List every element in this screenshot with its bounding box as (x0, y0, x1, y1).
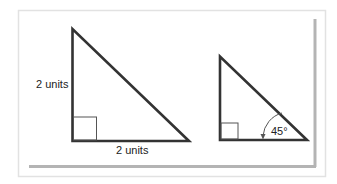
outer-frame (19, 11, 326, 177)
vertical-side-label: 2 units (36, 78, 69, 90)
diagram-canvas: 2 units 2 units 45° (0, 0, 337, 184)
angle-label: 45° (271, 125, 288, 137)
horizontal-side-label: 2 units (116, 144, 149, 156)
